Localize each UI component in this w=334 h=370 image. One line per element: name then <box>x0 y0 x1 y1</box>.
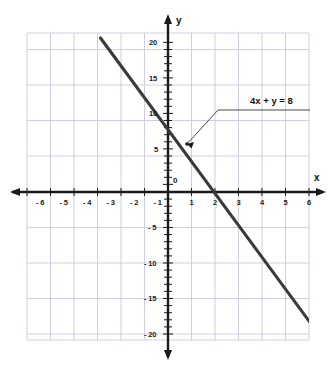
x-tick-label: 1 <box>190 199 194 207</box>
x-axis-right-arrow <box>316 188 326 196</box>
graph-figure: - 6 - 5 - 4 - 3 - 2 - 1 1 2 3 4 5 6 20 1… <box>0 0 334 370</box>
x-tick-label: - 5 <box>60 199 68 207</box>
y-tick-label: 5 <box>154 146 158 154</box>
x-tick-label: 5 <box>284 199 288 207</box>
x-tick-label: - 6 <box>36 199 44 207</box>
x-tick-label: - 3 <box>107 199 115 207</box>
y-axis <box>163 14 173 360</box>
line-4x-plus-y-equals-8 <box>101 38 324 340</box>
y-tick-label: 20 <box>149 39 157 47</box>
x-tick-label: 2 <box>213 199 217 207</box>
y-tick-label: - 10 <box>144 260 156 268</box>
coordinate-plane-svg <box>0 0 334 370</box>
x-tick-label: 6 <box>307 199 311 207</box>
origin-label: 0 <box>173 177 177 185</box>
x-axis-label: x <box>314 173 320 183</box>
x-tick-label: - 2 <box>130 199 138 207</box>
annotation-leader-line <box>185 110 310 149</box>
y-tick-label: 15 <box>149 75 157 83</box>
y-axis-bottom-arrow <box>164 350 172 360</box>
x-tick-label: 3 <box>237 199 241 207</box>
x-tick-label: - 1 <box>154 199 162 207</box>
y-tick-label: - 20 <box>144 331 156 339</box>
y-tick-label: - 5 <box>148 224 156 232</box>
x-tick-label: - 4 <box>83 199 91 207</box>
equation-annotation-label: 4x + y = 8 <box>250 96 293 106</box>
y-tick-label: - 15 <box>144 295 156 303</box>
y-tick-label: 10 <box>149 110 157 118</box>
y-axis-label: y <box>176 16 182 26</box>
x-tick-label: 4 <box>260 199 264 207</box>
x-axis-left-arrow <box>10 188 20 196</box>
y-axis-top-arrow <box>164 14 172 24</box>
